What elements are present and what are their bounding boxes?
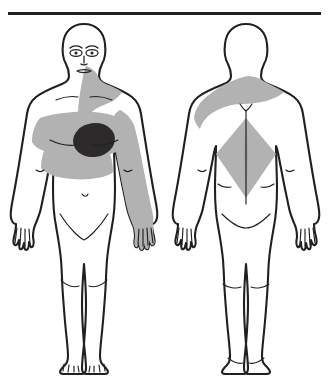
- divider-rule: [8, 12, 321, 15]
- body-figures-container: [0, 18, 329, 383]
- pain-chart-figure: Pain distribution body chart: [0, 0, 329, 383]
- anterior-body-figure: [8, 18, 160, 376]
- left-pupil-icon: [75, 52, 78, 55]
- posterior-body-figure: [170, 18, 322, 376]
- right-pupil-icon: [91, 52, 94, 55]
- chart-title: Pain distribution body chart: [0, 0, 1, 1]
